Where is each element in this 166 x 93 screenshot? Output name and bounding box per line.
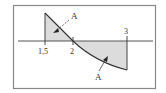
tick-label-1-5: 1,5 xyxy=(38,47,48,56)
region-label-lower: A xyxy=(95,72,102,82)
diagram-svg: A A 1,5 2 3 xyxy=(0,0,166,93)
tick-label-3: 3 xyxy=(124,27,128,36)
tick-label-2: 2 xyxy=(70,47,74,56)
region-label-upper: A xyxy=(71,11,78,21)
diagram: A A 1,5 2 3 xyxy=(0,0,166,93)
